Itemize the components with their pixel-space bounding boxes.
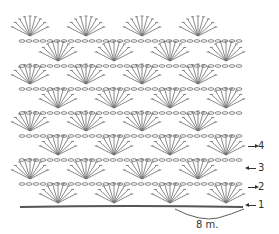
row-label-3: 3 [258, 163, 264, 173]
row-label-1: 1 [258, 200, 264, 210]
row-2-arrow [248, 187, 256, 188]
row-label-4: 4 [258, 141, 264, 151]
foundation-chain [20, 206, 243, 207]
row-3-arrow [248, 168, 256, 169]
repeat-label: 8 m. [196, 220, 218, 230]
repeat-bracket [175, 209, 244, 219]
row-1-arrow [248, 205, 256, 206]
row-label-2: 2 [258, 182, 264, 192]
row-4-arrow [248, 146, 256, 147]
chain-rows [19, 40, 242, 186]
fan-stitch-rows [11, 16, 246, 203]
crochet-chart [0, 0, 279, 234]
